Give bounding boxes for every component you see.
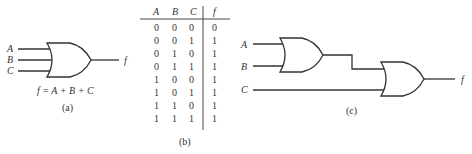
- caption-a: (a): [62, 102, 73, 114]
- table-row: 0000: [154, 22, 217, 33]
- table-row: 1011: [154, 87, 217, 98]
- table-row: 0111: [154, 61, 217, 72]
- or-gate-icon: [47, 43, 91, 77]
- or-gate-icon: [280, 38, 323, 72]
- table-row: 1001: [154, 74, 217, 85]
- svg-text:1: 1: [172, 48, 177, 59]
- or-gate-icon: [381, 62, 424, 96]
- svg-text:0: 0: [189, 74, 194, 85]
- svg-text:1: 1: [189, 61, 194, 72]
- svg-text:0: 0: [154, 61, 159, 72]
- input-label-c: C: [241, 84, 248, 95]
- caption-c: (c): [346, 105, 357, 117]
- caption-b: (b): [179, 136, 191, 148]
- svg-text:1: 1: [189, 35, 194, 46]
- svg-text:1: 1: [172, 113, 177, 124]
- svg-text:1: 1: [189, 87, 194, 98]
- svg-text:0: 0: [172, 74, 177, 85]
- header-b: B: [172, 6, 178, 17]
- svg-text:0: 0: [154, 22, 159, 33]
- svg-text:1: 1: [212, 100, 217, 111]
- output-label-f: f: [124, 55, 128, 66]
- table-row: 1101: [154, 100, 217, 111]
- svg-text:1: 1: [154, 87, 159, 98]
- truth-table: A B C f 0000 0011 0101 0111 1001 1011 11…: [140, 6, 230, 148]
- svg-text:0: 0: [189, 22, 194, 33]
- svg-text:0: 0: [154, 48, 159, 59]
- equation: f = A + B + C: [37, 85, 94, 96]
- table-row: 1111: [154, 113, 217, 124]
- svg-text:1: 1: [154, 113, 159, 124]
- svg-text:1: 1: [154, 74, 159, 85]
- svg-text:1: 1: [172, 61, 177, 72]
- svg-text:1: 1: [154, 100, 159, 111]
- figure-a: A B C f f = A + B + C (a): [6, 43, 128, 114]
- svg-text:0: 0: [172, 22, 177, 33]
- svg-text:1: 1: [212, 48, 217, 59]
- svg-text:0: 0: [189, 48, 194, 59]
- svg-text:0: 0: [172, 87, 177, 98]
- svg-text:1: 1: [212, 74, 217, 85]
- input-label-b: B: [7, 54, 13, 65]
- input-label-a: A: [240, 39, 248, 50]
- table-row: 0011: [154, 35, 217, 46]
- svg-text:1: 1: [212, 87, 217, 98]
- figure-c: A B C f (c): [240, 38, 465, 117]
- svg-text:1: 1: [212, 35, 217, 46]
- header-f: f: [213, 6, 217, 17]
- svg-text:0: 0: [172, 35, 177, 46]
- or-gate-figure: A B C f f = A + B + C (a) A B C f 0000 0…: [0, 0, 472, 154]
- svg-text:1: 1: [189, 113, 194, 124]
- svg-text:1: 1: [212, 61, 217, 72]
- svg-text:1: 1: [172, 100, 177, 111]
- svg-text:0: 0: [212, 22, 217, 33]
- svg-text:1: 1: [212, 113, 217, 124]
- input-label-c: C: [7, 65, 14, 76]
- input-label-b: B: [241, 61, 247, 72]
- header-a: A: [152, 6, 160, 17]
- output-label-f: f: [461, 74, 465, 85]
- header-c: C: [190, 6, 197, 17]
- svg-text:0: 0: [189, 100, 194, 111]
- svg-text:0: 0: [154, 35, 159, 46]
- input-label-a: A: [6, 43, 14, 54]
- table-row: 0101: [154, 48, 217, 59]
